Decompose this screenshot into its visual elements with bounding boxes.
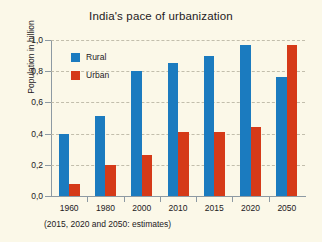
chart-figure: India's pace of urbanization Population … [0, 0, 322, 242]
bar-group [276, 40, 297, 196]
x-axis-tick-mark [87, 196, 88, 202]
bar-group [168, 40, 189, 196]
bar-group [131, 40, 152, 196]
bar-urban-2015[interactable] [214, 132, 225, 196]
x-axis-tick-mark [269, 196, 270, 202]
x-axis-tick-mark [232, 196, 233, 202]
y-axis-tick-mark [45, 40, 51, 41]
y-axis-tick-mark [45, 165, 51, 166]
bar-urban-1980[interactable] [105, 165, 116, 196]
x-axis-tick-label-2015: 2015 [194, 203, 234, 213]
y-axis-tick-mark [45, 71, 51, 72]
y-axis-tick-mark [45, 196, 51, 197]
y-axis-tick-label: 0,4 [3, 129, 43, 139]
chart-title: India's pace of urbanization [0, 10, 322, 22]
x-axis-tick-label-1960: 1960 [49, 203, 89, 213]
x-axis-tick-label-2010: 2010 [158, 203, 198, 213]
bar-urban-1960[interactable] [69, 184, 80, 196]
x-axis-tick-label-1980: 1980 [85, 203, 125, 213]
x-axis-tick-label-2020: 2020 [231, 203, 271, 213]
bar-rural-2000[interactable] [131, 71, 142, 196]
legend-swatch-urban-icon [71, 71, 80, 80]
bar-rural-2010[interactable] [168, 63, 179, 196]
x-axis-tick-mark [160, 196, 161, 202]
y-axis-tick-label: 0,8 [3, 66, 43, 76]
y-axis-tick-label: 0,0 [3, 191, 43, 201]
chart-footnote: (2015, 2020 and 2050: estimates) [44, 219, 171, 229]
bar-group [204, 40, 225, 196]
bar-rural-1960[interactable] [59, 134, 70, 196]
bar-rural-2050[interactable] [276, 77, 287, 196]
y-axis-tick-label: 1,0 [3, 35, 43, 45]
y-axis-tick-mark [45, 134, 51, 135]
bar-urban-2050[interactable] [287, 45, 298, 196]
legend-swatch-rural-icon [71, 53, 80, 62]
legend-item-rural[interactable]: Rural [71, 50, 109, 64]
bar-urban-2000[interactable] [142, 155, 153, 196]
bar-rural-2020[interactable] [240, 45, 251, 196]
y-axis-tick-mark [45, 102, 51, 103]
y-axis-tick-labels: 1,00,80,60,40,20,0 [0, 0, 43, 242]
x-axis-tick-mark [124, 196, 125, 202]
x-axis-tick-label-2050: 2050 [267, 203, 307, 213]
y-axis-tick-label: 0,6 [3, 97, 43, 107]
x-axis-tick-mark [196, 196, 197, 202]
chart-legend: Rural Urban [71, 50, 109, 86]
legend-label-urban: Urban [86, 70, 109, 80]
x-axis-tick-label-2000: 2000 [122, 203, 162, 213]
bar-group [240, 40, 261, 196]
legend-item-urban[interactable]: Urban [71, 68, 109, 82]
bar-rural-2015[interactable] [204, 56, 215, 196]
bar-urban-2010[interactable] [178, 132, 189, 196]
y-axis-tick-label: 0,2 [3, 160, 43, 170]
legend-label-rural: Rural [86, 52, 106, 62]
bar-rural-1980[interactable] [95, 116, 106, 196]
bar-urban-2020[interactable] [251, 127, 262, 196]
